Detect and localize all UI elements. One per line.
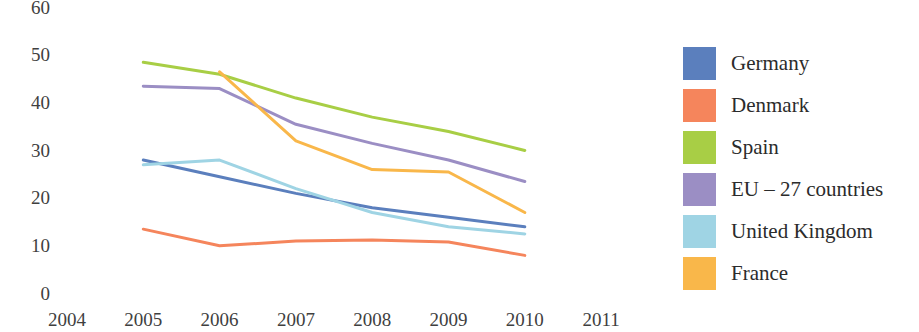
line-chart-figure: 0102030405060 20042005200620072008200920… [0,0,919,332]
x-tick-label: 2008 [337,310,407,329]
legend-item: Germany [683,42,919,84]
series-line [143,86,525,181]
series-line [143,229,525,255]
legend-swatch-icon [683,47,716,80]
legend-swatch-icon [683,215,716,248]
plot-area: 0102030405060 20042005200620072008200920… [0,0,670,332]
x-tick-label: 2011 [566,310,636,329]
legend-swatch-icon [683,173,716,206]
legend-label: EU – 27 countries [731,177,883,202]
legend-swatch-icon [683,257,716,290]
x-tick-label: 2004 [32,310,102,329]
legend-label: Germany [731,51,809,76]
legend-item: France [683,252,919,294]
chart-series-layer [0,0,670,332]
legend-item: United Kingdom [683,210,919,252]
legend-item: Spain [683,126,919,168]
x-tick-label: 2010 [490,310,560,329]
chart-legend: GermanyDenmarkSpainEU – 27 countriesUnit… [683,42,919,294]
x-tick-label: 2006 [185,310,255,329]
legend-swatch-icon [683,131,716,164]
x-tick-label: 2005 [108,310,178,329]
x-tick-label: 2007 [261,310,331,329]
series-line [143,62,525,150]
series-line [143,160,525,227]
legend-item: EU – 27 countries [683,168,919,210]
legend-label: Denmark [731,93,809,118]
legend-label: Spain [731,135,779,160]
x-tick-label: 2009 [414,310,484,329]
legend-label: France [731,261,788,286]
x-axis: 20042005200620072008200920102011 [0,300,670,330]
legend-label: United Kingdom [731,219,873,244]
legend-item: Denmark [683,84,919,126]
legend-swatch-icon [683,89,716,122]
